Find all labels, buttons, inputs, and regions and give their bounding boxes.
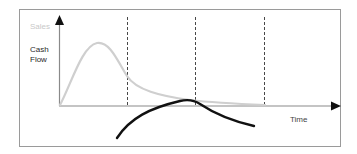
sales-label: Sales bbox=[30, 22, 50, 32]
cash-label-line1: Cash bbox=[30, 45, 49, 55]
sales-curve bbox=[60, 43, 265, 105]
cash-flow-label: Cash Flow bbox=[30, 45, 49, 65]
lifecycle-diagram bbox=[0, 0, 357, 154]
y-axis-arrow-icon bbox=[55, 15, 64, 25]
cash-label-line2: Flow bbox=[30, 55, 49, 65]
x-axis-arrow-icon bbox=[331, 102, 341, 111]
time-axis-label: Time bbox=[290, 115, 307, 125]
diagram-frame bbox=[20, 10, 341, 147]
